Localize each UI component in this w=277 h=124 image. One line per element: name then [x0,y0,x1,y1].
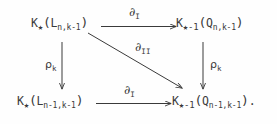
node-bottom-right: K★-1(Qn-1,k-1). [172,94,255,110]
node-top-left-head: K [31,16,38,30]
bottom-arrow-label-subscript: I [130,90,135,99]
node-bottom-left-open-paren: ( [29,93,37,108]
bottom-arrow-label: ∂I [124,84,135,98]
right-vertical-arrow-label: ρk [210,59,222,72]
node-bottom-right-period: . [249,94,256,108]
diagonal-arrow-label: ∂II [135,41,151,55]
node-bottom-right-close-paren: ) [241,93,249,108]
diagonal-arrow-label-subscript: II [141,47,150,56]
node-top-right-head: K [176,16,183,30]
node-top-right: K★-1(Qn,k-1) [176,16,244,32]
node-bottom-right-head: K [172,94,179,108]
node-top-right-head-subscript: ★-1 [183,22,199,32]
node-top-left: K★(Ln,k-1) [31,16,88,32]
node-top-left-open-paren: ( [43,15,51,30]
node-bottom-left-close-paren: ) [76,93,84,108]
node-top-right-close-paren: ) [236,15,244,30]
commutative-diagram: K★(Ln,k-1) K★-1(Qn,k-1) K★(Ln-1,k-1) K★-… [0,0,277,124]
node-bottom-left-body-subscript: n-1,k-1 [43,101,75,110]
node-bottom-right-head-subscript: ★-1 [179,100,195,110]
rho-icon: ρ [210,58,217,71]
top-arrow-label: ∂I [129,6,140,20]
node-bottom-right-body-subscript: n-1,k-1 [209,101,241,110]
node-bottom-right-open-paren: ( [194,93,202,108]
top-arrow-label-subscript: I [135,12,140,21]
node-top-right-open-paren: ( [198,15,206,30]
left-vertical-arrow-label-subscript: k [52,64,57,73]
left-vertical-arrow-label: ρk [45,59,57,72]
node-top-right-body: Q [206,16,213,30]
node-bottom-left: K★(Ln-1,k-1) [17,94,83,110]
node-top-left-body-subscript: n,k-1 [57,23,80,32]
rho-icon: ρ [45,58,52,71]
right-vertical-arrow-label-subscript: k [217,64,222,73]
node-bottom-right-body: Q [202,94,209,108]
node-top-right-body-subscript: n,k-1 [213,23,236,32]
node-bottom-left-head: K [17,94,24,108]
node-top-left-close-paren: ) [80,15,88,30]
